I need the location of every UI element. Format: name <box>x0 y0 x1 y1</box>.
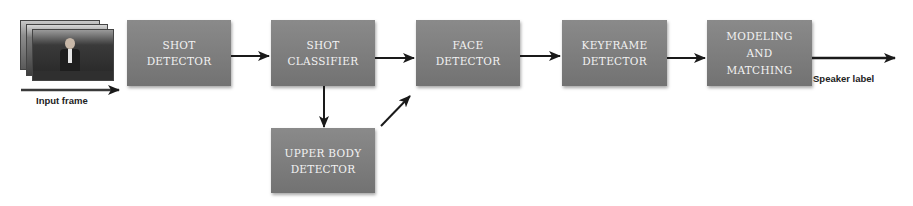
arrow-upper-body-to-face <box>381 96 410 126</box>
arrows-layer <box>0 0 913 206</box>
